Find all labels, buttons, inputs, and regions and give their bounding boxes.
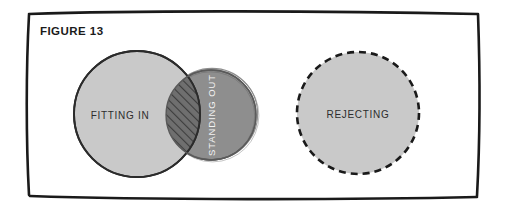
venn-diagram: STANDING OUT FITTING IN REJECTING xyxy=(0,0,505,215)
circle-label-fitting-in: FITTING IN xyxy=(91,110,150,121)
circle-label-standing-out: STANDING OUT xyxy=(206,74,217,156)
circle-rejecting: REJECTING xyxy=(297,52,419,174)
circle-label-rejecting: REJECTING xyxy=(327,109,390,120)
figure-container: FIGURE 13 STANDING OUT xyxy=(0,0,505,215)
